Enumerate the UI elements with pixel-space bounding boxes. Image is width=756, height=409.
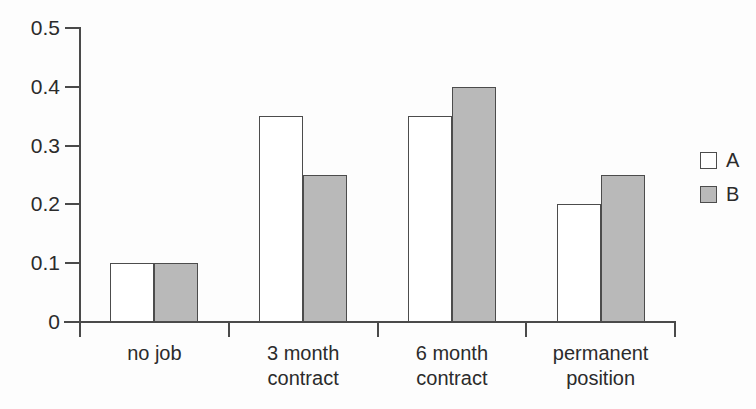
x-axis-category-label: 6 monthcontract bbox=[378, 341, 527, 391]
y-axis-tick-label: 0.1 bbox=[2, 252, 60, 273]
category-label-line: no job bbox=[80, 341, 229, 366]
bar-a-4 bbox=[557, 204, 601, 322]
bar-b-3 bbox=[452, 87, 496, 322]
x-axis-separator-tick bbox=[79, 322, 81, 337]
filled-square-icon bbox=[700, 186, 717, 203]
legend: AB bbox=[700, 143, 739, 211]
legend-item-b: B bbox=[700, 177, 739, 211]
legend-label: B bbox=[726, 184, 739, 204]
category-label-line: permanent bbox=[526, 341, 675, 366]
y-axis-tick-mark bbox=[65, 27, 80, 29]
bar-b-1 bbox=[154, 263, 198, 322]
x-axis-separator-tick bbox=[228, 322, 230, 337]
bar-chart: 00.10.20.30.40.5 no job3 monthcontract6 … bbox=[0, 0, 756, 409]
x-axis-separator-tick bbox=[674, 322, 676, 337]
y-axis-tick-label: 0.4 bbox=[2, 76, 60, 97]
x-axis-separator-tick bbox=[377, 322, 379, 337]
y-axis-tick-label: 0.5 bbox=[2, 17, 60, 38]
bar-a-3 bbox=[408, 116, 452, 322]
bar-a-2 bbox=[259, 116, 303, 322]
y-axis-tick-label: 0 bbox=[2, 311, 60, 332]
x-axis-category-label: permanentposition bbox=[526, 341, 675, 391]
y-axis-tick-label: 0.3 bbox=[2, 135, 60, 156]
x-axis-separator-tick bbox=[525, 322, 527, 337]
category-label-line: contract bbox=[378, 366, 527, 391]
y-axis-tick-mark bbox=[65, 203, 80, 205]
bar-b-4 bbox=[601, 175, 645, 322]
legend-label: A bbox=[726, 150, 739, 170]
y-axis-tick-mark bbox=[65, 86, 80, 88]
open-square-icon bbox=[700, 152, 717, 169]
bar-b-2 bbox=[303, 175, 347, 322]
y-axis-tick-mark bbox=[65, 262, 80, 264]
x-axis-category-label: 3 monthcontract bbox=[229, 341, 378, 391]
category-label-line: position bbox=[526, 366, 675, 391]
bar-a-1 bbox=[110, 263, 154, 322]
y-axis-tick-mark bbox=[65, 145, 80, 147]
category-label-line: 3 month bbox=[229, 341, 378, 366]
category-label-line: contract bbox=[229, 366, 378, 391]
y-axis-tick-label: 0.2 bbox=[2, 193, 60, 214]
plot-area bbox=[80, 28, 675, 322]
x-axis-category-label: no job bbox=[80, 341, 229, 366]
legend-item-a: A bbox=[700, 143, 739, 177]
category-label-line: 6 month bbox=[378, 341, 527, 366]
